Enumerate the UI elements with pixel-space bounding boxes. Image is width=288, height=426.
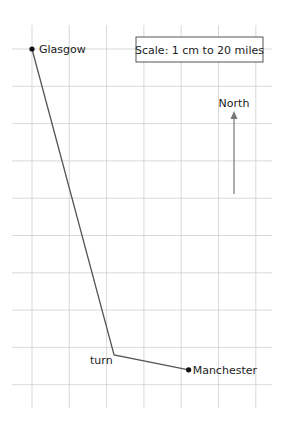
glasgow-point: [29, 46, 34, 51]
north-arrow-head-icon: [231, 111, 238, 119]
turn-label: turn: [90, 354, 113, 367]
scale-label: Scale: 1 cm to 20 miles: [135, 44, 264, 57]
grid: [12, 25, 272, 408]
scale-box: Scale: 1 cm to 20 miles: [135, 37, 264, 62]
north-arrow: North: [219, 97, 250, 194]
route-line: [32, 49, 189, 370]
north-label: North: [219, 97, 250, 110]
manchester-point: [186, 367, 191, 372]
manchester-label: Manchester: [193, 364, 258, 377]
glasgow-label: Glasgow: [39, 43, 86, 56]
route-diagram: Glasgow turn Manchester Scale: 1 cm to 2…: [0, 0, 288, 426]
